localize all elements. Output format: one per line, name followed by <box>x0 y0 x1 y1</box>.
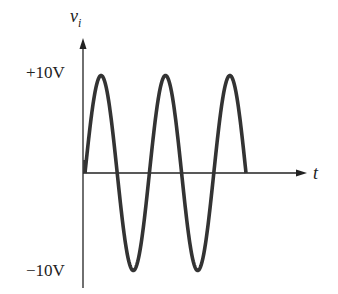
negative-peak-label: −10V <box>26 261 66 280</box>
positive-peak-label: +10V <box>26 63 66 82</box>
x-axis-arrow-icon <box>296 170 307 177</box>
y-axis-arrow-icon <box>80 38 87 49</box>
waveform-diagram: vi t +10V −10V <box>0 0 338 294</box>
x-axis-label: t <box>313 163 319 183</box>
y-axis-label: vi <box>70 6 81 30</box>
